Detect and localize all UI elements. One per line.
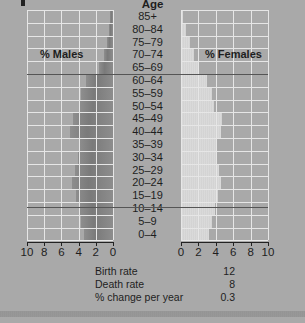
age-label: 55–59 — [115, 87, 180, 100]
grid-line-horizontal — [27, 23, 113, 24]
grid-line-horizontal — [27, 61, 113, 62]
male-row — [27, 215, 113, 228]
age-label: 15–19 — [115, 189, 180, 202]
stat-label: % change per year — [95, 291, 183, 303]
age-label: 75–79 — [115, 36, 180, 49]
female-row — [181, 23, 268, 36]
age-label: 80–84 — [115, 23, 180, 36]
female-row — [181, 138, 268, 151]
grid-line-horizontal — [27, 36, 113, 37]
male-bar — [81, 88, 113, 100]
x-tick-label: 10 — [258, 246, 278, 258]
male-row — [27, 10, 113, 23]
male-row — [27, 74, 113, 87]
age-axis-title: Age — [130, 0, 175, 10]
stat-label: Birth rate — [95, 265, 138, 277]
male-row — [27, 228, 113, 241]
x-tick-label: 0 — [103, 246, 123, 258]
grid-line-horizontal — [181, 176, 268, 177]
female-bar — [181, 165, 219, 177]
female-row — [181, 36, 268, 49]
male-row — [27, 61, 113, 74]
female-row — [181, 228, 268, 241]
females-label: % Females — [205, 48, 262, 60]
grid-line-horizontal — [181, 189, 268, 190]
females-panel — [181, 10, 268, 240]
male-bar — [84, 229, 113, 241]
male-row — [27, 125, 113, 138]
age-label: 40–44 — [115, 125, 180, 138]
female-row — [181, 100, 268, 113]
grid-line-horizontal — [27, 176, 113, 177]
stat-death-rate: Death rate 8 — [95, 278, 205, 291]
grid-line-horizontal — [27, 125, 113, 126]
male-row — [27, 36, 113, 49]
female-row — [181, 125, 268, 138]
reference-line-15 — [27, 207, 268, 208]
male-row — [27, 151, 113, 164]
grid-line-horizontal — [27, 112, 113, 113]
female-bar — [181, 229, 209, 241]
male-bar — [76, 190, 113, 202]
stat-value: 12 — [195, 265, 235, 278]
stat-value: 0.3 — [195, 291, 235, 304]
grid-line-horizontal — [181, 87, 268, 88]
female-row — [181, 189, 268, 202]
grid-line-vertical — [268, 10, 269, 240]
female-row — [181, 176, 268, 189]
female-row — [181, 112, 268, 125]
grid-line-horizontal — [27, 138, 113, 139]
grid-line-horizontal — [181, 228, 268, 229]
stat-birth-rate: Birth rate 12 — [95, 265, 205, 278]
age-label: 35–39 — [115, 138, 180, 151]
footer-divider — [0, 311, 305, 317]
page-corner-mark — [21, 0, 25, 6]
grid-line-horizontal — [181, 125, 268, 126]
stat-label: Death rate — [95, 278, 144, 290]
male-row — [27, 138, 113, 151]
male-row — [27, 87, 113, 100]
grid-line-horizontal — [181, 36, 268, 37]
male-row — [27, 164, 113, 177]
female-row — [181, 87, 268, 100]
grid-line-horizontal — [27, 164, 113, 165]
males-label: % Males — [40, 48, 83, 60]
male-row — [27, 112, 113, 125]
female-row — [181, 74, 268, 87]
age-label: 10–14 — [115, 202, 180, 215]
grid-line-vertical — [113, 10, 114, 240]
male-bar — [70, 126, 113, 138]
female-bar — [181, 216, 212, 228]
grid-line-horizontal — [181, 151, 268, 152]
grid-line-horizontal — [181, 202, 268, 203]
grid-line-horizontal — [181, 215, 268, 216]
female-bar — [181, 49, 194, 61]
age-label: 30–34 — [115, 151, 180, 164]
males-panel — [27, 10, 113, 240]
stat-value: 8 — [195, 278, 235, 291]
male-bar — [86, 75, 113, 87]
stat-change-per-year: % change per year 0.3 — [95, 291, 205, 304]
female-row — [181, 10, 268, 23]
male-bar — [75, 165, 113, 177]
grid-line-horizontal — [27, 100, 113, 101]
grid-line-horizontal — [27, 228, 113, 229]
female-row — [181, 215, 268, 228]
female-bar — [181, 62, 199, 74]
female-bar — [181, 88, 212, 100]
female-row — [181, 61, 268, 74]
male-row — [27, 100, 113, 113]
age-label: 45–49 — [115, 112, 180, 125]
right-x-axis — [181, 242, 268, 243]
grid-line-horizontal — [181, 100, 268, 101]
male-bar — [81, 216, 113, 228]
female-bar — [181, 75, 207, 87]
age-label: 65–69 — [115, 61, 180, 74]
male-row — [27, 189, 113, 202]
grid-line-horizontal — [181, 10, 268, 11]
male-row — [27, 23, 113, 36]
age-label: 70–74 — [115, 48, 180, 61]
male-bar — [104, 49, 113, 61]
reference-line-65 — [27, 74, 268, 75]
grid-line-horizontal — [27, 215, 113, 216]
